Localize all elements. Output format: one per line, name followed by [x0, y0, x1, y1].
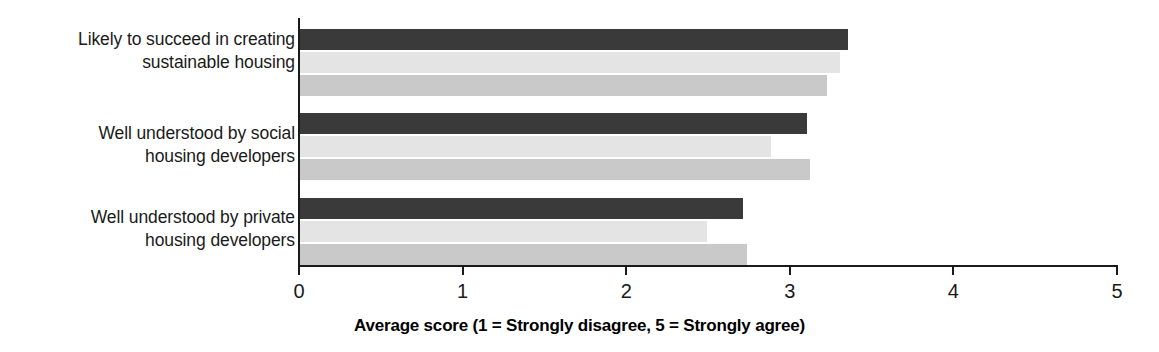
x-tick-3 — [789, 267, 791, 275]
category-label-1: Well understood by social housing develo… — [98, 122, 295, 168]
bar-g1-s1[interactable] — [300, 136, 771, 157]
x-tick-2 — [625, 267, 627, 275]
bar-g0-s1[interactable] — [300, 52, 840, 73]
category-label-2: Well understood by private housing devel… — [91, 206, 295, 252]
bar-g0-s0[interactable] — [300, 29, 848, 50]
x-tick-label-4: 4 — [933, 280, 973, 303]
bar-g2-s0[interactable] — [300, 198, 743, 219]
bar-g1-s0[interactable] — [300, 113, 807, 134]
x-tick-0 — [298, 267, 300, 275]
x-axis-title: Average score (1 = Strongly disagree, 5 … — [0, 316, 1159, 336]
x-tick-5 — [1116, 267, 1118, 275]
x-tick-1 — [462, 267, 464, 275]
x-tick-4 — [952, 267, 954, 275]
bar-chart: Likely to succeed in creating sustainabl… — [0, 0, 1159, 352]
x-tick-label-1: 1 — [443, 280, 483, 303]
x-tick-label-5: 5 — [1097, 280, 1137, 303]
x-axis-line — [298, 265, 1118, 267]
plot-area: 012345 — [298, 18, 1118, 266]
x-tick-label-2: 2 — [606, 280, 646, 303]
bar-g2-s2[interactable] — [300, 244, 747, 265]
x-tick-label-0: 0 — [279, 280, 319, 303]
category-label-0: Likely to succeed in creating sustainabl… — [78, 28, 295, 74]
bar-g0-s2[interactable] — [300, 75, 827, 96]
bar-g1-s2[interactable] — [300, 159, 810, 180]
x-tick-label-3: 3 — [770, 280, 810, 303]
bar-g2-s1[interactable] — [300, 221, 707, 242]
